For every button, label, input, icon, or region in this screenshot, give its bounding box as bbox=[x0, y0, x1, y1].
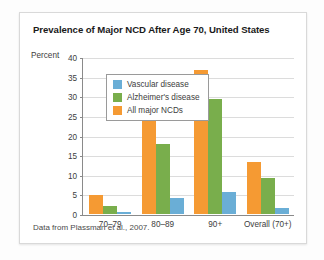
legend-swatch-icon-alzheimers-disease bbox=[113, 93, 122, 102]
bar bbox=[117, 212, 131, 214]
y-tick-mark bbox=[80, 78, 83, 79]
y-tick-label: 25 bbox=[68, 112, 77, 121]
y-tick-label: 5 bbox=[72, 191, 77, 200]
bar bbox=[170, 198, 184, 214]
legend-item-vascular-disease: Vascular disease bbox=[113, 80, 200, 89]
plot-wrapper: 0510152025303540 70–7980–8990+Overall (7… bbox=[82, 58, 294, 216]
y-tick-mark bbox=[80, 215, 83, 216]
y-tick-mark bbox=[80, 137, 83, 138]
bar bbox=[247, 162, 261, 214]
bar bbox=[156, 144, 170, 214]
source-note: Data from Plassman et al., 2007. bbox=[33, 223, 150, 232]
y-tick-label: 20 bbox=[68, 132, 77, 141]
y-axis-label: Percent bbox=[31, 51, 59, 60]
y-tick-mark bbox=[80, 195, 83, 196]
x-tick-label: 90+ bbox=[208, 220, 222, 229]
bar bbox=[103, 206, 117, 214]
bar bbox=[275, 208, 289, 214]
y-tick-label: 35 bbox=[68, 73, 77, 82]
figure-card: Prevalence of Major NCD After Age 70, Un… bbox=[19, 12, 307, 244]
bar bbox=[261, 178, 275, 214]
bar bbox=[89, 195, 103, 215]
y-tick-mark bbox=[80, 58, 83, 59]
legend-swatch-icon-vascular-disease bbox=[113, 80, 122, 89]
x-tick-label: Overall (70+) bbox=[244, 220, 292, 229]
x-tick-label: 80–89 bbox=[151, 220, 174, 229]
legend-swatch-icon-all-major-ncds bbox=[113, 106, 122, 115]
figure-page: Prevalence of Major NCD After Age 70, Un… bbox=[0, 0, 324, 260]
y-tick-label: 0 bbox=[72, 211, 77, 220]
y-tick-label: 15 bbox=[68, 152, 77, 161]
bar bbox=[142, 120, 156, 214]
y-tick-mark bbox=[80, 156, 83, 157]
legend-item-all-major-ncds: All major NCDs bbox=[113, 106, 200, 115]
y-tick-mark bbox=[80, 117, 83, 118]
legend-label-all-major-ncds: All major NCDs bbox=[127, 106, 183, 115]
bar bbox=[208, 99, 222, 214]
y-tick-mark bbox=[80, 176, 83, 177]
legend-item-alzheimers-disease: Alzheimer's disease bbox=[113, 93, 200, 102]
y-tick-label: 40 bbox=[68, 54, 77, 63]
y-tick-label: 10 bbox=[68, 171, 77, 180]
page-title: Prevalence of Major NCD After Age 70, Un… bbox=[33, 24, 301, 35]
bar bbox=[222, 192, 236, 214]
bar-group: Overall (70+) bbox=[242, 58, 295, 214]
y-tick-label: 30 bbox=[68, 93, 77, 102]
y-tick-mark bbox=[80, 97, 83, 98]
chart-legend: Vascular disease Alzheimer's disease All… bbox=[106, 74, 209, 121]
legend-label-alzheimers-disease: Alzheimer's disease bbox=[127, 93, 200, 102]
legend-label-vascular-disease: Vascular disease bbox=[127, 80, 189, 89]
